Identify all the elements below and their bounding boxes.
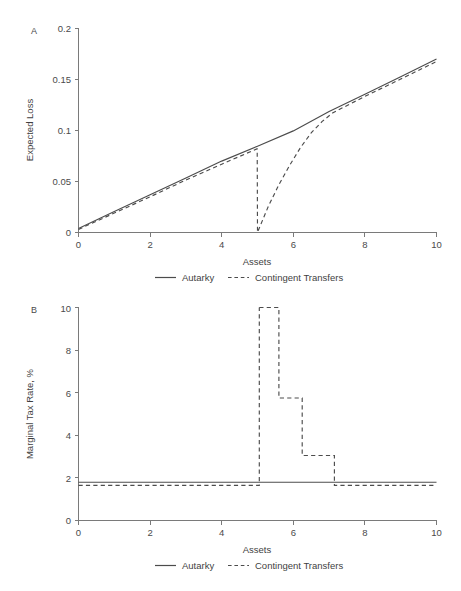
panel-b-ytick-4: 8 bbox=[66, 345, 71, 356]
panel-b-ylabel: Marginal Tax Rate, % bbox=[24, 368, 35, 459]
panel-a-xtick-2: 4 bbox=[219, 239, 224, 250]
panel-b-xtick-2: 4 bbox=[219, 527, 224, 538]
panel-b-xtick-4: 8 bbox=[362, 527, 367, 538]
panel-a: A 0 0.05 0.1 0.15 0.2 0 2 4 6 8 10 bbox=[24, 23, 442, 283]
panel-b-x-ticks bbox=[79, 521, 437, 525]
panel-b-legend-label-contingent: Contingent Transfers bbox=[255, 560, 343, 571]
panel-b-xtick-3: 6 bbox=[291, 527, 296, 538]
panel-a-xtick-0: 0 bbox=[76, 239, 81, 250]
panel-b-legend: Autarky Contingent Transfers bbox=[155, 560, 343, 571]
panel-a-xtick-5: 10 bbox=[431, 239, 442, 250]
panel-b-xtick-5: 10 bbox=[431, 527, 442, 538]
panel-b-letter: B bbox=[31, 305, 37, 315]
panel-b-ytick-5: 10 bbox=[60, 303, 71, 314]
panel-b-axes bbox=[79, 308, 437, 521]
panel-b-xlabel: Assets bbox=[243, 544, 272, 555]
figure-svg: A 0 0.05 0.1 0.15 0.2 0 2 4 6 8 10 bbox=[0, 0, 461, 591]
panel-a-legend: Autarky Contingent Transfers bbox=[155, 272, 343, 283]
panel-a-letter: A bbox=[31, 26, 37, 36]
panel-a-legend-label-contingent: Contingent Transfers bbox=[255, 272, 343, 283]
panel-a-xtick-4: 8 bbox=[362, 239, 367, 250]
panel-b-ytick-3: 6 bbox=[66, 388, 71, 399]
panel-b-ytick-2: 4 bbox=[66, 430, 71, 441]
panel-b-ytick-0: 0 bbox=[66, 515, 71, 526]
panel-b: B 0 2 4 6 8 10 0 2 4 6 8 bbox=[24, 303, 442, 572]
panel-a-xtick-3: 6 bbox=[291, 239, 296, 250]
panel-a-legend-label-autarky: Autarky bbox=[182, 272, 214, 283]
panel-b-legend-label-autarky: Autarky bbox=[182, 560, 214, 571]
panel-a-ylabel: Expected Loss bbox=[24, 99, 35, 162]
panel-b-ytick-1: 2 bbox=[66, 473, 71, 484]
panel-a-series-autarky bbox=[79, 59, 437, 228]
panel-a-series-contingent bbox=[79, 62, 437, 233]
panel-a-axes bbox=[79, 29, 437, 233]
panel-b-xtick-1: 2 bbox=[147, 527, 152, 538]
panel-a-xlabel: Assets bbox=[243, 256, 272, 267]
panel-a-xtick-1: 2 bbox=[147, 239, 152, 250]
panel-b-xtick-0: 0 bbox=[76, 527, 81, 538]
panel-b-series-contingent bbox=[79, 308, 437, 486]
panel-a-ytick-1: 0.05 bbox=[53, 176, 72, 187]
panel-a-y-ticks bbox=[75, 29, 79, 233]
figure-container: A 0 0.05 0.1 0.15 0.2 0 2 4 6 8 10 bbox=[0, 0, 461, 591]
panel-a-x-ticks bbox=[79, 233, 437, 237]
panel-a-ytick-3: 0.15 bbox=[53, 74, 72, 85]
panel-a-ytick-0: 0 bbox=[66, 227, 71, 238]
panel-b-y-ticks bbox=[75, 308, 79, 521]
panel-a-ytick-2: 0.1 bbox=[58, 125, 71, 136]
panel-a-ytick-4: 0.2 bbox=[58, 23, 71, 34]
